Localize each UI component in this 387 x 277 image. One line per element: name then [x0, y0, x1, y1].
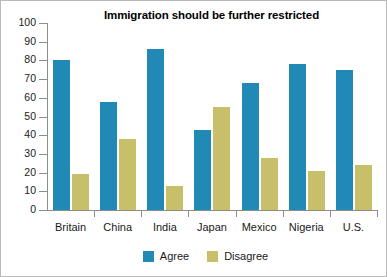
y-axis-tick-label: 80	[24, 53, 36, 65]
bar-mexico-disagree	[261, 158, 278, 210]
chart-legend: AgreeDisagree	[1, 250, 387, 262]
x-axis-line	[47, 210, 378, 211]
x-axis-tick-mark	[94, 210, 95, 217]
bar-us-agree	[336, 70, 353, 210]
legend-item-disagree[interactable]: Disagree	[207, 250, 268, 262]
bar-nigeria-agree	[289, 64, 306, 210]
bar-group	[283, 23, 330, 210]
y-axis-tick-mark	[39, 79, 47, 80]
x-axis-tick-mark	[141, 210, 142, 217]
bar-japan-disagree	[213, 107, 230, 210]
bar-china-disagree	[119, 139, 136, 210]
bar-group	[236, 23, 283, 210]
x-axis-tick-mark	[283, 210, 284, 217]
y-axis-tick-label: 10	[24, 184, 36, 196]
y-axis-tick-mark	[39, 135, 47, 136]
y-axis-tick-label: 90	[24, 35, 36, 47]
x-axis-label-mexico: Mexico	[236, 221, 283, 233]
bar-india-agree	[147, 49, 164, 210]
y-axis-tick-mark	[39, 154, 47, 155]
x-axis-label-india: India	[141, 221, 188, 233]
x-axis-label-us: U.S.	[330, 221, 377, 233]
bar-group	[47, 23, 94, 210]
x-axis-label-japan: Japan	[188, 221, 235, 233]
y-axis-tick-label: 100	[18, 16, 36, 28]
x-axis-label-britain: Britain	[47, 221, 94, 233]
legend-item-agree[interactable]: Agree	[143, 250, 189, 262]
bar-chart-figure: Immigration should be further restricted…	[0, 0, 387, 277]
bar-nigeria-disagree	[308, 171, 325, 210]
bar-group	[94, 23, 141, 210]
legend-label: Disagree	[224, 250, 268, 262]
y-axis-tick-label: 50	[24, 110, 36, 122]
legend-swatch-icon	[143, 251, 154, 262]
bar-us-disagree	[355, 165, 372, 210]
y-axis-tick-mark	[39, 60, 47, 61]
bar-group	[330, 23, 377, 210]
x-axis-tick-mark	[377, 210, 378, 217]
y-axis-tick-label: 20	[24, 166, 36, 178]
x-axis-label-china: China	[94, 221, 141, 233]
y-axis-tick-label: 30	[24, 147, 36, 159]
bar-group	[188, 23, 235, 210]
x-axis-label-nigeria: Nigeria	[283, 221, 330, 233]
x-axis-tick-mark	[330, 210, 331, 217]
bar-britain-disagree	[72, 174, 89, 210]
y-axis-tick-mark	[39, 98, 47, 99]
plot-area	[47, 23, 377, 210]
y-axis-tick-mark	[39, 42, 47, 43]
y-axis-tick-mark	[39, 173, 47, 174]
y-axis-tick-mark	[39, 117, 47, 118]
legend-label: Agree	[160, 250, 189, 262]
chart-title: Immigration should be further restricted	[1, 9, 387, 21]
bar-japan-agree	[194, 130, 211, 210]
bar-india-disagree	[166, 186, 183, 210]
y-axis-tick-mark	[39, 210, 47, 211]
y-axis-tick-label: 0	[30, 203, 36, 215]
bar-britain-agree	[53, 60, 70, 210]
bar-china-agree	[100, 102, 117, 210]
y-axis-tick-label: 40	[24, 128, 36, 140]
bar-mexico-agree	[242, 83, 259, 210]
legend-swatch-icon	[207, 251, 218, 262]
y-axis-tick-label: 70	[24, 72, 36, 84]
bar-group	[141, 23, 188, 210]
x-axis-tick-mark	[188, 210, 189, 217]
y-axis-tick-mark	[39, 23, 47, 24]
y-axis-tick-mark	[39, 191, 47, 192]
y-axis-tick-label: 60	[24, 91, 36, 103]
x-axis-tick-mark	[236, 210, 237, 217]
